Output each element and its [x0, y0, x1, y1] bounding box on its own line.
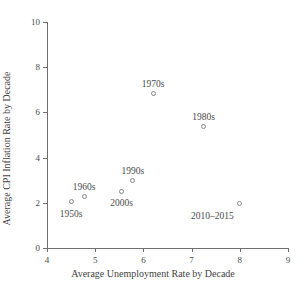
data-point-label: 1980s [192, 113, 215, 123]
x-tick-label: 9 [286, 256, 291, 265]
data-point-label: 2000s [110, 199, 133, 209]
y-axis-title: Average CPI Inflation Rate by Decade [0, 0, 14, 297]
x-tick-mark [143, 248, 144, 252]
y-tick-label: 6 [36, 108, 41, 117]
x-tick-mark [288, 248, 289, 252]
data-point[interactable] [130, 178, 135, 183]
x-tick-mark [47, 248, 48, 252]
y-tick-label: 0 [36, 244, 41, 253]
data-point[interactable] [201, 124, 206, 129]
data-point[interactable] [119, 189, 124, 194]
x-tick-mark [192, 248, 193, 252]
data-point[interactable] [69, 199, 74, 204]
y-tick-mark [43, 67, 47, 68]
data-point-label: 1970s [142, 80, 165, 90]
x-tick-label: 5 [93, 256, 98, 265]
data-point-label: 2010–2015 [191, 212, 234, 222]
x-axis-title: Average Unemployment Rate by Decade [0, 268, 306, 279]
x-tick-label: 8 [238, 256, 243, 265]
data-point[interactable] [237, 201, 242, 206]
scatter-chart-figure: 0246810 456789 1950s1960s1970s1980s1990s… [0, 0, 306, 297]
y-tick-label: 8 [36, 63, 41, 72]
plot-area: 0246810 456789 1950s1960s1970s1980s1990s… [47, 22, 288, 248]
x-tick-label: 6 [141, 256, 146, 265]
data-point[interactable] [82, 194, 87, 199]
y-tick-mark [43, 22, 47, 23]
x-tick-label: 7 [189, 256, 194, 265]
data-point-label: 1950s [60, 210, 83, 220]
y-tick-mark [43, 112, 47, 113]
y-tick-label: 4 [36, 153, 41, 162]
data-point[interactable] [151, 91, 156, 96]
y-tick-mark [43, 203, 47, 204]
x-axis-line [47, 248, 289, 249]
y-tick-label: 2 [36, 198, 41, 207]
data-point-label: 1960s [73, 183, 96, 193]
y-tick-mark [43, 158, 47, 159]
x-tick-label: 4 [45, 256, 50, 265]
x-tick-mark [240, 248, 241, 252]
y-tick-label: 10 [31, 18, 40, 27]
data-point-label: 1990s [121, 167, 144, 177]
x-tick-mark [95, 248, 96, 252]
